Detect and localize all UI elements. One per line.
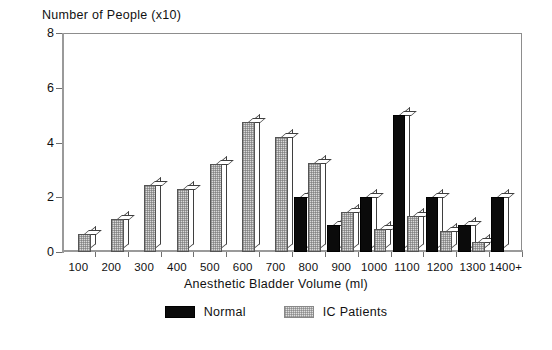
bar-front-face: [341, 212, 354, 252]
x-tick-label-400: 400: [167, 261, 187, 273]
bar-front-face: [491, 197, 504, 252]
bar-front-face: [327, 225, 340, 252]
x-tick-mark: [489, 252, 490, 257]
bar-normal-1300: [458, 225, 471, 252]
x-tick-label-500: 500: [200, 261, 220, 273]
bar-ic-patients-700: [275, 137, 288, 252]
bar-normal-900: [327, 225, 340, 252]
bar-front-face: [440, 231, 453, 252]
y-tick-label: 2: [28, 190, 54, 204]
y-tick-label: 8: [28, 26, 54, 40]
x-tick-mark: [391, 252, 392, 257]
bar-ic-patients-600: [242, 122, 255, 252]
bar-chart-figure: Number of People (x10) 02468 10020030040…: [0, 0, 552, 350]
bar-front-face: [374, 229, 387, 252]
x-tick-mark: [522, 252, 523, 257]
bar-front-face: [294, 197, 307, 252]
x-tick-label-200: 200: [101, 261, 121, 273]
bar-front-face: [472, 242, 485, 252]
bar-front-face: [393, 115, 406, 252]
bar-ic-patients-200: [111, 219, 124, 252]
bar-ic-patients-100: [78, 234, 91, 252]
bar-front-face: [144, 185, 157, 252]
legend-swatch-normal: [165, 306, 195, 318]
x-axis-title: Anesthetic Bladder Volume (ml): [0, 277, 552, 291]
bar-ic-patients-1100: [407, 216, 420, 252]
bar-front-face: [308, 163, 321, 252]
bars-layer: [62, 33, 522, 252]
x-tick-mark: [456, 252, 457, 257]
y-tick-label: 0: [28, 245, 54, 259]
bar-side-face: [156, 177, 161, 248]
x-tick-label-900: 900: [331, 261, 351, 273]
bar-ic-patients-500: [210, 164, 223, 252]
bar-ic-patients-400: [177, 189, 190, 252]
x-tick-mark: [193, 252, 194, 257]
bar-ic-patients-1000: [374, 229, 387, 252]
x-tick-mark: [358, 252, 359, 257]
legend-label: Normal: [204, 305, 246, 319]
bar-normal-1400+: [491, 197, 504, 252]
x-tick-label-100: 100: [69, 261, 89, 273]
legend-label: IC Patients: [323, 305, 387, 319]
x-tick-label-700: 700: [266, 261, 286, 273]
bar-side-face: [321, 155, 326, 248]
x-tick-mark: [292, 252, 293, 257]
bar-side-face: [255, 114, 260, 248]
bar-side-face: [504, 189, 509, 248]
bar-side-face: [288, 129, 293, 248]
bar-front-face: [177, 189, 190, 252]
bar-side-face: [189, 181, 194, 248]
bar-ic-patients-1200: [440, 231, 453, 252]
bar-ic-patients-300: [144, 185, 157, 252]
x-tick-label-1300: 1300: [460, 261, 486, 273]
bar-front-face: [111, 219, 124, 252]
x-tick-label-800: 800: [299, 261, 319, 273]
bar-front-face: [458, 225, 471, 252]
bar-normal-1000: [360, 197, 373, 252]
bar-front-face: [275, 137, 288, 252]
x-tick-mark: [325, 252, 326, 257]
bar-side-face: [222, 156, 227, 248]
bar-normal-800: [294, 197, 307, 252]
x-tick-label-1200: 1200: [427, 261, 453, 273]
x-tick-label-1400+: 1400+: [489, 261, 522, 273]
bar-front-face: [78, 234, 91, 252]
bar-normal-1200: [426, 197, 439, 252]
x-tick-label-600: 600: [233, 261, 253, 273]
legend-item-ic-patients: IC Patients: [284, 305, 387, 319]
bar-ic-patients-1300: [472, 242, 485, 252]
x-tick-label-300: 300: [134, 261, 154, 273]
y-tick-label: 4: [28, 136, 54, 150]
bar-front-face: [210, 164, 223, 252]
bar-front-face: [360, 197, 373, 252]
x-tick-mark: [95, 252, 96, 257]
chart-legend: NormalIC Patients: [0, 305, 552, 319]
bar-front-face: [426, 197, 439, 252]
legend-item-normal: Normal: [165, 305, 246, 319]
bar-ic-patients-900: [341, 212, 354, 252]
x-tick-mark: [423, 252, 424, 257]
bar-ic-patients-800: [308, 163, 321, 252]
legend-swatch-ic: [284, 306, 314, 318]
x-tick-label-1000: 1000: [361, 261, 387, 273]
x-tick-label-1100: 1100: [394, 261, 420, 273]
x-tick-mark: [259, 252, 260, 257]
y-axis-title: Number of People (x10): [42, 8, 181, 22]
x-tick-mark: [128, 252, 129, 257]
x-tick-mark: [226, 252, 227, 257]
bar-normal-1100: [393, 115, 406, 252]
bar-front-face: [242, 122, 255, 252]
bar-front-face: [407, 216, 420, 252]
x-tick-mark: [161, 252, 162, 257]
y-tick-label: 6: [28, 81, 54, 95]
